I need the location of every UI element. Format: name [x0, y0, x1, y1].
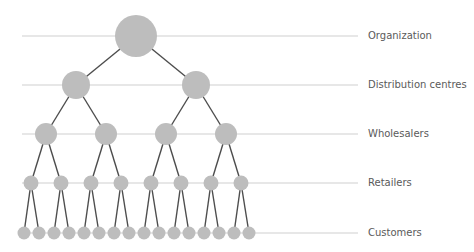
node-circle	[18, 227, 31, 240]
connector-line	[54, 183, 61, 233]
connector-line	[181, 183, 189, 233]
connector-line	[174, 183, 181, 233]
node-circle	[63, 227, 76, 240]
node-circle	[234, 176, 249, 191]
node-circle	[138, 227, 151, 240]
node-circle	[24, 176, 39, 191]
node-circle	[108, 227, 121, 240]
label-customers: Customers	[368, 227, 422, 239]
label-distribution-centres: Distribution centres	[368, 79, 467, 91]
label-organization: Organization	[368, 30, 432, 42]
node-circle	[48, 227, 61, 240]
level-guide-lines	[22, 36, 358, 233]
node-circle	[84, 176, 99, 191]
connector-line	[204, 183, 211, 233]
node-circle	[35, 123, 57, 145]
node-circle	[114, 176, 129, 191]
connector-line	[211, 183, 219, 233]
node-circle	[183, 227, 196, 240]
connector-line	[121, 183, 129, 233]
node-circle	[213, 227, 226, 240]
connector-line	[241, 183, 249, 233]
connector-line	[151, 183, 159, 233]
connector-line	[24, 183, 31, 233]
node-circle	[198, 227, 211, 240]
node-circle	[123, 227, 136, 240]
node-circle	[182, 71, 210, 99]
connector-line	[91, 183, 99, 233]
connector-line	[61, 183, 69, 233]
node-circle	[144, 176, 159, 191]
node-circle	[174, 176, 189, 191]
node-circle	[115, 15, 157, 57]
node-circle	[93, 227, 106, 240]
node-circle	[204, 176, 219, 191]
connector-line	[31, 183, 39, 233]
node-circle	[168, 227, 181, 240]
node-circle	[153, 227, 166, 240]
node-circle	[215, 123, 237, 145]
connector-line	[84, 183, 91, 233]
label-wholesalers: Wholesalers	[368, 128, 429, 140]
node-circle	[228, 227, 241, 240]
node-circle	[62, 71, 90, 99]
connector-line	[114, 183, 121, 233]
node-circle	[243, 227, 256, 240]
connector-line	[144, 183, 151, 233]
nodes	[18, 15, 256, 240]
connector-line	[234, 183, 241, 233]
node-circle	[155, 123, 177, 145]
label-retailers: Retailers	[368, 177, 412, 189]
node-circle	[54, 176, 69, 191]
node-circle	[78, 227, 91, 240]
node-circle	[95, 123, 117, 145]
node-circle	[33, 227, 46, 240]
